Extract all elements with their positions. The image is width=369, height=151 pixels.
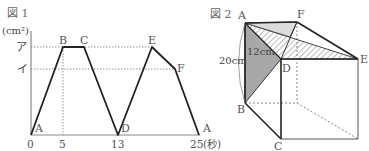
vertex-f: F	[297, 8, 305, 21]
x-tick-5: 5	[59, 138, 66, 150]
point-b: B	[59, 34, 67, 47]
edge-bc	[245, 103, 281, 139]
figure-2-solid: 図 2 A F D E B C 20cm 12cm	[210, 8, 368, 151]
dimension-20cm: 20cm	[219, 55, 247, 66]
edge-af	[245, 22, 297, 23]
x-tick-0: 0	[27, 138, 34, 150]
figure-1-graph: 図 1 (cm²) ア イ A B C D E F A 0 5 13 25 (秒…	[2, 7, 221, 150]
figures-canvas: 図 1 (cm²) ア イ A B C D E F A 0 5 13 25 (秒…	[0, 0, 369, 151]
area-line	[31, 47, 199, 135]
y-tick-a: ア	[16, 41, 27, 54]
x-tick-13: 13	[111, 138, 124, 150]
vertex-d: D	[282, 62, 291, 75]
x-axis-unit: (秒)	[203, 138, 221, 150]
hidden-edge-2	[297, 103, 358, 139]
y-axis-unit: (cm²)	[2, 25, 29, 36]
dimension-12cm: 12cm	[247, 46, 275, 57]
vertex-e: E	[360, 53, 368, 66]
point-f: F	[177, 62, 185, 75]
figure-1-title: 図 1	[7, 7, 29, 20]
figure-2-title: 図 2	[210, 8, 232, 21]
point-a-start: A	[34, 122, 44, 135]
vertex-b: B	[237, 103, 245, 116]
point-a-end: A	[202, 122, 212, 135]
y-tick-i: イ	[17, 63, 28, 76]
vertex-c: C	[274, 140, 282, 151]
point-d: D	[121, 122, 130, 135]
point-e: E	[148, 34, 156, 47]
x-tick-25: 25	[190, 138, 203, 150]
point-c: C	[80, 34, 88, 47]
vertex-a: A	[237, 9, 247, 22]
